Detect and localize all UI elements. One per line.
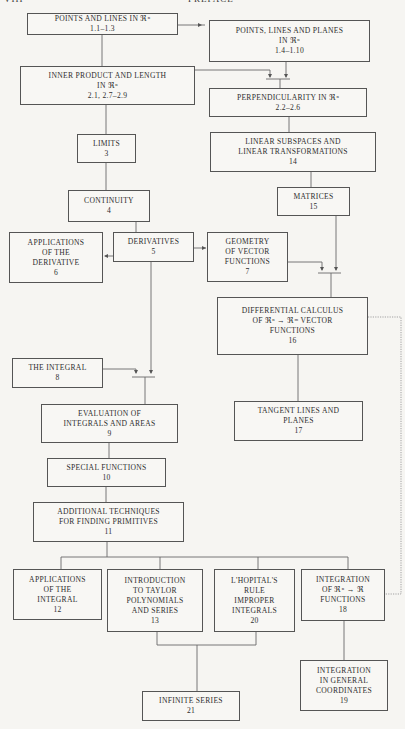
node-sections: 2.2–2.6 — [276, 103, 301, 113]
node-sections: 7 — [245, 267, 249, 277]
node-title: TANGENT LINES AND PLANES — [258, 406, 340, 426]
node-sections: 16 — [288, 336, 296, 346]
node-the-integral: THE INTEGRAL 8 — [12, 358, 103, 388]
node-sections: 10 — [102, 473, 110, 483]
node-points-lines-planes: POINTS, LINES AND PLANES IN ℜⁿ 1.4–1.10 — [209, 20, 370, 62]
node-title: L'HOPITAL'S RULE IMPROPER INTEGRALS — [231, 576, 278, 616]
edge-n3-n4 — [195, 70, 270, 77]
edge-n12-n21-dotted — [368, 317, 401, 594]
node-tangent-lines: TANGENT LINES AND PLANES 17 — [234, 401, 363, 441]
node-limits: LIMITS 3 — [77, 134, 136, 163]
node-sections: 12 — [53, 605, 61, 615]
node-sections: 1.1–1.3 — [90, 24, 115, 34]
arrowhead-n2 — [198, 23, 202, 27]
node-sections: 3 — [104, 149, 108, 159]
node-sections: 6 — [54, 268, 58, 278]
node-title: INTEGRATION IN GENERAL COORDINATES — [316, 666, 372, 696]
node-continuity: CONTINUITY 4 — [68, 190, 150, 222]
node-applications-integral: APPLICATIONS OF THE INTEGRAL 12 — [13, 569, 102, 620]
node-title: DERIVATIVES — [128, 237, 180, 247]
arrowhead-n13-n14 — [134, 370, 138, 374]
node-title: GEOMETRY OF VECTOR FUNCTIONS — [225, 237, 270, 267]
node-title: ADDITIONAL TECHNIQUES FOR FINDING PRIMIT… — [57, 507, 160, 527]
node-title: CONTINUITY — [84, 196, 134, 206]
node-title: LINEAR SUBSPACES AND LINEAR TRANSFORMATI… — [238, 137, 348, 157]
node-differential-calculus: DIFFERENTIAL CALCULUS OF ℜⁿ → ℜᵐ VECTOR … — [217, 297, 368, 355]
node-applications-derivative: APPLICATIONS OF THE DERIVATIVE 6 — [9, 232, 103, 283]
node-sections: 15 — [309, 202, 317, 212]
arrowhead-n2-n4 — [284, 74, 288, 78]
node-title: POINTS AND LINES IN ℜⁿ — [55, 14, 151, 24]
node-sections: 21 — [187, 706, 195, 716]
edge-n11-n12 — [288, 262, 322, 270]
node-inner-product: INNER PRODUCT AND LENGTH IN ℜⁿ 2.1, 2.7–… — [20, 66, 195, 105]
node-title: EVALUATION OF INTEGRALS AND AREAS — [63, 409, 155, 429]
node-sections: 5 — [151, 247, 155, 257]
node-integration-general-coordinates: INTEGRATION IN GENERAL COORDINATES 19 — [300, 660, 388, 711]
node-sections: 1.4–1.10 — [275, 46, 304, 56]
node-title: LIMITS — [93, 139, 120, 149]
node-sections: 11 — [105, 527, 113, 537]
node-title: INTEGRATION OF ℜⁿ → ℜ FUNCTIONS — [316, 575, 370, 605]
node-title: SPECIAL FUNCTIONS — [66, 463, 146, 473]
node-sections: 4 — [107, 206, 111, 216]
node-taylor-polynomials: INTRODUCTION TO TAYLOR POLYNOMIALS AND S… — [107, 569, 203, 632]
node-sections: 18 — [339, 605, 347, 615]
node-sections: 19 — [340, 696, 348, 706]
node-derivatives: DERIVATIVES 5 — [113, 232, 194, 262]
node-special-functions: SPECIAL FUNCTIONS 10 — [47, 458, 166, 487]
arrowhead-n11 — [202, 246, 206, 250]
node-linear-subspaces: LINEAR SUBSPACES AND LINEAR TRANSFORMATI… — [210, 132, 376, 172]
arrowhead-n10-n14 — [149, 370, 153, 374]
node-additional-techniques: ADDITIONAL TECHNIQUES FOR FINDING PRIMIT… — [33, 502, 184, 542]
node-infinite-series: INFINITE SERIES 21 — [142, 691, 240, 721]
node-lhopitals-rule: L'HOPITAL'S RULE IMPROPER INTEGRALS 20 — [214, 569, 295, 632]
node-title: APPLICATIONS OF THE INTEGRAL — [29, 575, 86, 605]
node-title: POINTS, LINES AND PLANES IN ℜⁿ — [236, 26, 344, 46]
node-title: INNER PRODUCT AND LENGTH IN ℜⁿ — [49, 71, 167, 91]
node-title: APPLICATIONS OF THE DERIVATIVE — [28, 238, 85, 268]
arrowhead-n8-n12 — [334, 267, 338, 271]
node-sections: 14 — [289, 157, 297, 167]
node-evaluation-integrals: EVALUATION OF INTEGRALS AND AREAS 9 — [41, 404, 178, 443]
arrowhead-n11-n12 — [320, 267, 324, 271]
node-sections: 9 — [107, 429, 111, 439]
node-sections: 2.1, 2.7–2.9 — [88, 91, 128, 101]
arrowhead-n3-n4 — [268, 74, 272, 78]
node-matrices: MATRICES 15 — [277, 187, 350, 216]
node-sections: 17 — [294, 426, 302, 436]
node-title: MATRICES — [294, 192, 334, 202]
node-title: DIFFERENTIAL CALCULUS OF ℜⁿ → ℜᵐ VECTOR … — [242, 306, 344, 336]
node-sections: 8 — [55, 373, 59, 383]
node-points-and-lines: POINTS AND LINES IN ℜⁿ 1.1–1.3 — [27, 13, 178, 35]
edge-n13-n14 — [103, 369, 136, 373]
node-title: THE INTEGRAL — [28, 363, 86, 373]
arrowhead-n9 — [104, 254, 108, 258]
node-title: PERPENDICULARITY IN ℜⁿ — [237, 93, 339, 103]
node-title: INTRODUCTION TO TAYLOR POLYNOMIALS AND S… — [125, 576, 186, 616]
node-integration-rn-r: INTEGRATION OF ℜⁿ → ℜ FUNCTIONS 18 — [301, 569, 385, 621]
node-geometry-vector-functions: GEOMETRY OF VECTOR FUNCTIONS 7 — [207, 232, 288, 282]
node-sections: 13 — [151, 616, 159, 626]
node-title: INFINITE SERIES — [159, 696, 223, 706]
node-sections: 20 — [250, 616, 258, 626]
node-perpendicularity: PERPENDICULARITY IN ℜⁿ 2.2–2.6 — [209, 88, 367, 117]
